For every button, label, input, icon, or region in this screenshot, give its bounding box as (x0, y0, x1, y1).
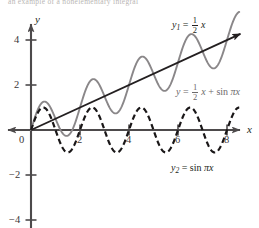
annotation-sum-fraction: 12 (192, 83, 198, 101)
x-axis-label: x (247, 124, 252, 135)
annotation-sine-arg: πx (204, 162, 213, 173)
annotation-sine-name: y2 (171, 162, 179, 173)
annotation-line-name: y1 (172, 19, 180, 30)
annotation-sum-fn: sin (216, 86, 228, 97)
annotation-sum-equation: y = 12x + sin πx (176, 83, 240, 101)
y-tick-label-neg4: −4 (9, 215, 20, 226)
annotation-sine-equation: y2 = sin πx (171, 163, 213, 174)
annotation-line-fraction: 12 (192, 16, 198, 34)
y-axis-label: y (35, 14, 40, 25)
x-tick-label-2: 2 (77, 135, 82, 146)
annotation-sum-arg: πx (231, 86, 240, 97)
annotation-sine-fn: sin (190, 162, 202, 173)
y-tick-label-4: 4 (14, 35, 19, 46)
x-tick-label-8: 8 (224, 135, 229, 146)
x-axis (8, 125, 240, 136)
y-tick-label-2: 2 (14, 80, 19, 91)
x-tick-label-4: 4 (126, 135, 131, 146)
origin-label: 0 (19, 135, 24, 146)
annotation-line-equation: y1 = 12x (172, 16, 206, 34)
figure-container: an example of a nonelementary integral (0, 0, 259, 228)
curve-sum-half-x-plus-sin (31, 12, 239, 136)
y-tick-label-neg2: −2 (9, 170, 20, 181)
graph-canvas (0, 0, 259, 228)
curve-line-half-x (31, 34, 240, 130)
x-tick-label-6: 6 (175, 135, 180, 146)
annotation-line-var: x (201, 19, 205, 30)
y-axis (26, 24, 37, 228)
